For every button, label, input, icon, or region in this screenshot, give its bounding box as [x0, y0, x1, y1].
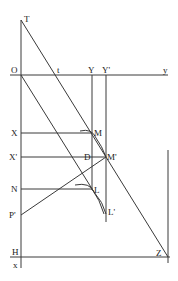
label-t: t — [57, 65, 60, 75]
label-M: M — [94, 128, 102, 138]
label-y: y — [163, 65, 168, 75]
label-T: T — [24, 14, 30, 24]
label-H: H — [12, 247, 19, 257]
label-O: O — [11, 65, 18, 75]
label-D: D — [84, 152, 91, 162]
label-Lp: L' — [108, 207, 115, 217]
label-Yp: Y' — [102, 65, 110, 75]
label-L: L — [94, 185, 100, 195]
label-Xp: X' — [9, 152, 17, 162]
label-x: x — [13, 260, 18, 270]
label-X: X — [11, 128, 18, 138]
label-Pp: P' — [9, 210, 16, 220]
geometric-diagram: T O t Y Y' y X M X' D M' N L P' L' H Z x — [0, 0, 178, 281]
label-Z: Z — [156, 248, 162, 258]
label-Y: Y — [88, 65, 95, 75]
label-N: N — [11, 184, 18, 194]
line-TZ — [21, 20, 168, 257]
label-Mp: M' — [107, 152, 117, 162]
